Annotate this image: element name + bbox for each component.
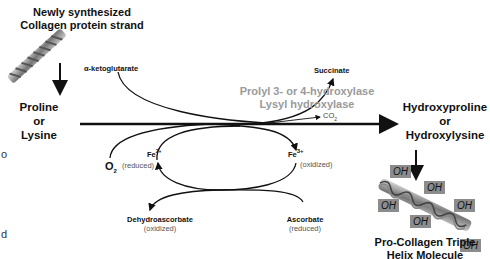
oh-badge: OH <box>410 215 431 228</box>
o2-text: O <box>105 160 114 172</box>
oh-badge: OH <box>378 199 399 212</box>
fe3-state: (oxidized) <box>300 160 333 169</box>
enzyme-line-1: Prolyl 3- or 4-hydroxylase <box>232 85 382 98</box>
fe2-superscript: 2+ <box>156 148 162 154</box>
succinate-label: Succinate <box>314 66 349 75</box>
o2-subscript: 2 <box>114 168 117 174</box>
ascorbate-text: Ascorbate <box>270 215 340 224</box>
product-line-2: or <box>400 114 490 128</box>
enzyme-label: Prolyl 3- or 4-hydroxylase Lysyl hydroxy… <box>232 85 382 111</box>
oh-badge: OH <box>424 181 445 194</box>
product-line-1: Hydroxyproline <box>400 100 490 114</box>
ascorbate-label: Ascorbate (reduced) <box>270 215 340 233</box>
title-line-2: Collagen protein strand <box>12 19 152 32</box>
edge-char-o: o <box>1 148 7 160</box>
alpha-ketoglutarate-label: α-ketoglutarate <box>84 64 138 73</box>
fe3-superscript: 3+ <box>297 148 304 154</box>
co2-subscript: 2 <box>334 116 337 122</box>
enzyme-line-2: Lysyl hydroxylase <box>232 98 382 111</box>
product-line-3: Hydroxylysine <box>400 128 490 142</box>
substrate-line-3: Lysine <box>14 128 64 142</box>
dehydro-state: (oxidized) <box>105 224 215 233</box>
edge-char-d: d <box>1 228 7 240</box>
oh-badge: OH <box>390 165 411 178</box>
collagen-strand-icon <box>7 28 67 84</box>
dehydroascorbate-label: Dehydroascorbate (oxidized) <box>105 215 215 233</box>
fe3-label: Fe3+ <box>288 148 304 159</box>
pro-collagen-label: Pro-Collagen Triple Helix Molecule <box>365 236 485 259</box>
fe2-text: Fe <box>147 150 156 159</box>
oh-badge: OH <box>454 199 475 212</box>
pro-collagen-line-2: Helix Molecule <box>365 249 485 259</box>
title-newly-synthesized: Newly synthesized Collagen protein stran… <box>12 6 152 32</box>
co2-text: CO <box>323 111 334 120</box>
ascorbate-state: (reduced) <box>270 224 340 233</box>
title-line-1: Newly synthesized <box>12 6 152 19</box>
substrate-line-1: Proline <box>14 100 64 114</box>
dehydro-text: Dehydroascorbate <box>105 215 215 224</box>
fe3-text: Fe <box>288 150 297 159</box>
o2-label: O2 <box>105 160 117 174</box>
fe2-label: Fe2+ <box>147 148 161 159</box>
co2-label: CO2 <box>323 111 337 122</box>
product-label: Hydroxyproline or Hydroxylysine <box>400 100 490 142</box>
pro-collagen-line-1: Pro-Collagen Triple <box>365 236 485 249</box>
substrate-label: Proline or Lysine <box>14 100 64 142</box>
substrate-line-2: or <box>14 114 64 128</box>
fe2-state: (reduced) <box>122 161 154 170</box>
